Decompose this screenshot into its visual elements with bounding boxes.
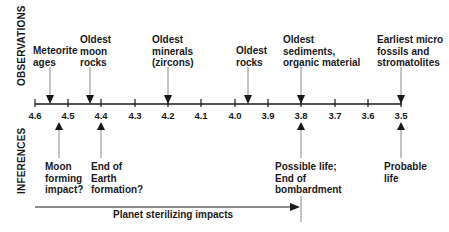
inference-end-of-earth-formation: End of Earth formation? [91, 161, 143, 196]
tick-label: 3.6 [358, 110, 378, 121]
inference-probable-life: Probable life [384, 161, 427, 184]
observation-arrows [46, 67, 405, 104]
sterilizing-impacts-label: Planet sterilizing impacts [113, 209, 233, 221]
observation-micro-fossils: Earliest micro fossils and stromatolites [377, 34, 443, 69]
tick-label: 4.2 [158, 110, 178, 121]
tick-label: 4.0 [225, 110, 245, 121]
tick-label: 4.4 [91, 110, 111, 121]
tick-label: 3.5 [391, 110, 411, 121]
tick-label: 4.5 [58, 110, 78, 121]
inference-possible-life: Possible life; End of bombardment [275, 161, 342, 196]
observation-oldest-sediments: Oldest sediments, organic material [283, 34, 360, 69]
tick-label: 3.8 [291, 110, 311, 121]
tick-label: 4.1 [191, 110, 211, 121]
tick-label: 3.7 [325, 110, 345, 121]
observation-oldest-moon-rocks: Oldest moon rocks [80, 34, 111, 69]
observation-oldest-minerals: Oldest minerals (zircons) [152, 34, 194, 69]
inference-moon-forming-impact: Moon forming impact? [45, 161, 83, 196]
tick-label: 4.3 [125, 110, 145, 121]
tick-label: 4.6 [25, 110, 45, 121]
inference-arrows [55, 122, 405, 158]
observation-oldest-rocks: Oldest rocks [236, 45, 267, 68]
observation-meteorite-ages: Meteorite ages [33, 45, 77, 68]
tick-label: 3.9 [258, 110, 278, 121]
